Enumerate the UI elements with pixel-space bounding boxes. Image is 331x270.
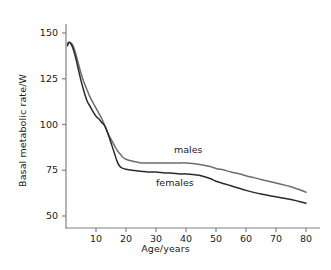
x-tick-label: 50 bbox=[204, 233, 228, 244]
x-tick-label: 80 bbox=[294, 233, 318, 244]
x-tick-label: 40 bbox=[174, 233, 198, 244]
y-tick-label: 100 bbox=[28, 119, 58, 130]
series-label-males: males bbox=[174, 144, 203, 155]
basal-metabolic-rate-line-chart bbox=[0, 0, 331, 270]
x-tick-label: 60 bbox=[234, 233, 258, 244]
x-axis-title: Age/years bbox=[0, 243, 331, 254]
x-tick-label: 30 bbox=[144, 233, 168, 244]
x-axis-ticks bbox=[96, 228, 306, 232]
y-tick-label: 75 bbox=[28, 164, 58, 175]
series-line-males bbox=[68, 42, 307, 192]
y-axis-title: Basal metabolic rate/W bbox=[17, 56, 28, 206]
chart-figure: Basal metabolic rate/W Age/years 1501251… bbox=[0, 0, 331, 270]
x-tick-label: 20 bbox=[114, 233, 138, 244]
y-tick-label: 50 bbox=[28, 210, 58, 221]
y-tick-label: 125 bbox=[28, 73, 58, 84]
x-tick-label: 70 bbox=[264, 233, 288, 244]
y-tick-label: 150 bbox=[28, 27, 58, 38]
x-tick-label: 10 bbox=[84, 233, 108, 244]
series-label-females: females bbox=[156, 177, 194, 188]
